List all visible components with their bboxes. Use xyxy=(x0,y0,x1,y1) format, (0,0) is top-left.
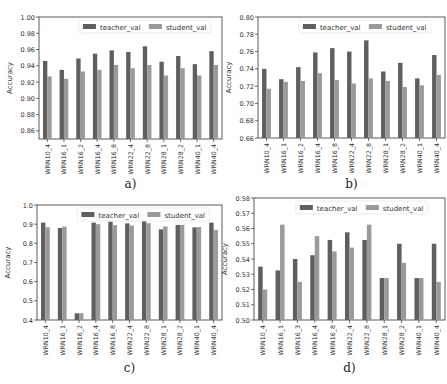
student-bar xyxy=(113,225,117,320)
teacher-bar xyxy=(76,58,80,139)
x-tick-label: WRN22_8 xyxy=(144,144,152,174)
y-tick-label: 0.70 xyxy=(240,100,254,108)
student-bar xyxy=(280,225,285,320)
legend-student-label: student_val xyxy=(164,212,205,220)
student-bar xyxy=(147,65,151,139)
student-bar xyxy=(79,313,83,320)
panel-caption: a) xyxy=(125,177,137,191)
bar-group-wrn40_1 xyxy=(415,78,424,138)
teacher-bar xyxy=(108,222,112,320)
teacher-bar xyxy=(193,64,197,139)
x-tick-label: WRN22_8 xyxy=(143,325,151,355)
student-bar xyxy=(180,225,184,320)
y-tick-label: 0.94 xyxy=(21,62,35,70)
x-tick-label: WRN16_8 xyxy=(331,143,339,173)
student-bar xyxy=(297,282,302,320)
x-tick-label: WRN22_4 xyxy=(126,325,134,355)
x-tick-label: WRN28_1 xyxy=(160,144,168,174)
student-bar xyxy=(352,84,356,138)
y-tick-label: 0.68 xyxy=(240,117,254,125)
student-bar xyxy=(386,81,390,138)
legend-teacher-swatch xyxy=(300,205,313,210)
x-tick-label: WRN40_4 xyxy=(433,325,441,355)
y-tick-label: 0.54 xyxy=(236,256,250,264)
bar-group-wrn16_1 xyxy=(279,79,288,138)
legend-student-swatch xyxy=(369,24,382,29)
student-bar xyxy=(402,263,407,320)
student-bar xyxy=(350,248,355,320)
student-bar xyxy=(97,70,101,139)
y-tick-label: 0.9 xyxy=(23,221,33,229)
teacher-bar xyxy=(58,228,62,320)
y-tick-label: 0.98 xyxy=(21,30,35,38)
student-bar xyxy=(146,223,150,320)
teacher-bar xyxy=(75,313,79,320)
teacher-bar xyxy=(41,223,45,320)
student-bar xyxy=(318,73,322,138)
student-bar xyxy=(81,71,85,139)
student-bar xyxy=(315,236,320,320)
bar-group-wrn16_4 xyxy=(91,223,100,320)
teacher-bar xyxy=(293,259,298,320)
student-bar xyxy=(214,65,218,139)
bar-group-wrn28_1 xyxy=(381,71,390,138)
teacher-bar xyxy=(432,55,436,138)
teacher-bar xyxy=(176,225,180,320)
student-bar xyxy=(96,224,100,320)
x-tick-label: WRN28_1 xyxy=(382,143,390,173)
student-bar xyxy=(437,75,441,138)
student-bar xyxy=(403,87,407,138)
legend: teacher_valstudent_val xyxy=(299,20,431,33)
bar-group-wrn16_8 xyxy=(108,222,117,320)
teacher-bar xyxy=(93,54,97,139)
x-tick-label: WRN16_1 xyxy=(280,143,288,173)
x-tick-label: WRN28_2 xyxy=(398,325,406,355)
bar-group-wrn28_2 xyxy=(176,225,185,320)
x-tick-label: WRN16_2 xyxy=(297,143,305,173)
bar-group-wrn28_1 xyxy=(380,278,389,320)
teacher-bar xyxy=(328,240,333,320)
bar-group-wrn10_4 xyxy=(41,223,50,320)
teacher-bar xyxy=(192,227,196,320)
chart-panel-b: 0.660.680.700.720.740.760.780.80Accuracy… xyxy=(225,14,445,192)
y-tick-label: 0.96 xyxy=(21,46,35,54)
teacher-bar xyxy=(398,63,402,138)
student-bar xyxy=(263,290,268,321)
student-bar xyxy=(367,225,372,320)
teacher-bar xyxy=(159,229,163,320)
bar-group-wrn28_2 xyxy=(176,56,185,139)
legend-student-label: student_val xyxy=(386,24,427,32)
y-tick-label: 0.90 xyxy=(21,95,35,103)
x-tick-label: WRN16_3 xyxy=(294,325,302,355)
x-tick-label: WRN40_1 xyxy=(193,325,201,355)
teacher-bar xyxy=(43,61,47,139)
x-tick-label: WRN22_8 xyxy=(365,143,373,173)
student-bar xyxy=(436,282,441,320)
x-tick-label: WRN10_4 xyxy=(259,325,267,355)
x-tick-label: WRN16_4 xyxy=(92,325,100,355)
teacher-bar xyxy=(397,244,402,320)
teacher-bar xyxy=(276,270,281,320)
legend-teacher-label: teacher_val xyxy=(98,212,139,220)
student-bar xyxy=(335,80,339,138)
figure-canvas: 0.860.880.900.920.940.960.981.00Accuracy… xyxy=(0,0,447,384)
panel-caption: d) xyxy=(343,361,355,375)
y-axis-label: Accuracy xyxy=(4,247,12,279)
teacher-bar xyxy=(126,52,130,139)
y-axis-label: Accuracy xyxy=(6,62,14,94)
teacher-bar xyxy=(176,56,180,139)
y-tick-label: 0.53 xyxy=(236,271,250,279)
y-tick-label: 0.7 xyxy=(23,259,33,267)
legend-teacher-swatch xyxy=(83,24,96,29)
student-bar xyxy=(284,82,288,138)
x-tick-label: WRN10_4 xyxy=(44,144,52,174)
teacher-bar xyxy=(380,278,385,320)
y-tick-label: 0.55 xyxy=(236,240,250,248)
student-bar xyxy=(163,226,167,320)
student-bar xyxy=(114,65,118,139)
x-tick-label: WRN16_1 xyxy=(277,325,285,355)
x-tick-label: WRN22_4 xyxy=(346,325,354,355)
y-tick-label: 0.6 xyxy=(23,278,33,286)
y-tick-label: 0.80 xyxy=(240,14,254,22)
y-tick-label: 0.86 xyxy=(21,127,35,135)
